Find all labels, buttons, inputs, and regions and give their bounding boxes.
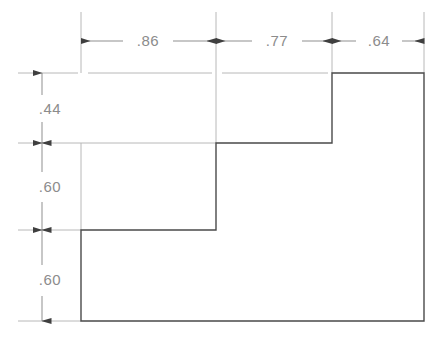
dimension-label-height-2: .60 xyxy=(39,178,61,195)
part-profile-outline xyxy=(81,73,424,321)
engineering-drawing-canvas: .86 .77 .64 .44 .60 .60 xyxy=(0,0,443,338)
dimension-label-height-1: .44 xyxy=(39,100,61,117)
horizontal-extension-lines xyxy=(18,73,328,321)
drawing-svg: .86 .77 .64 .44 .60 .60 xyxy=(0,0,443,338)
dimension-label-width-1: .86 xyxy=(137,32,159,49)
dimension-label-width-3: .64 xyxy=(368,32,390,49)
dimension-label-height-3: .60 xyxy=(39,271,61,288)
dimension-text-group: .86 .77 .64 .44 .60 .60 xyxy=(39,32,390,288)
dimension-label-width-2: .77 xyxy=(266,32,288,49)
